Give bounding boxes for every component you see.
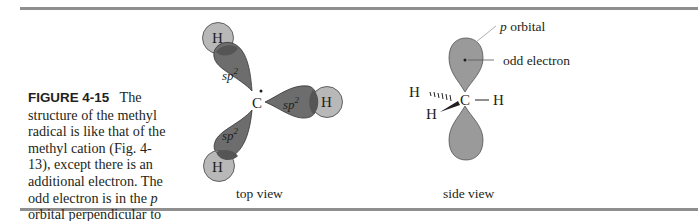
side-view-diagram: odd electron p orbital C H H H side view <box>409 19 570 201</box>
h-label-upper: H <box>212 30 223 46</box>
h-label-right: H <box>321 94 332 110</box>
top-view-label: top view <box>236 186 283 201</box>
sp2-label-upper: sp2 <box>222 66 239 83</box>
top-view-diagram: H H H sp2 sp2 sp2 C top view <box>203 23 343 202</box>
p-orbital-label: p orbital <box>499 19 546 34</box>
p-orbital-leader <box>476 26 496 42</box>
h-label-hashed: H <box>409 84 420 100</box>
radical-dot <box>260 90 263 93</box>
carbon-label-top: C <box>252 95 262 111</box>
odd-electron-dot <box>464 59 467 62</box>
hashed-wedge-bond <box>430 92 451 101</box>
side-view-label: side view <box>443 186 495 201</box>
solid-wedge-bond <box>440 101 460 112</box>
h-label-wedge: H <box>426 106 437 122</box>
figure-illustration: H H H sp2 sp2 sp2 C top view odd electro… <box>0 0 699 221</box>
h-label-lower: H <box>212 159 223 175</box>
p-orbital-upper-lobe <box>449 38 483 92</box>
p-orbital-lower-lobe <box>449 106 483 160</box>
carbon-label-side: C <box>460 92 470 108</box>
h-label-right-side: H <box>493 92 504 108</box>
odd-electron-label: odd electron <box>503 53 570 68</box>
